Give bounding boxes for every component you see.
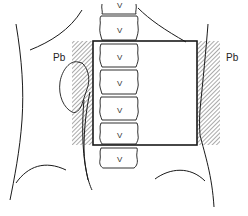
right-lead-shield <box>197 41 220 145</box>
right-flank-line <box>200 135 214 207</box>
left-flank-line <box>10 24 23 200</box>
svg-text:V: V <box>117 155 123 164</box>
svg-text:V: V <box>117 1 123 10</box>
svg-text:V: V <box>117 79 123 88</box>
right-buttock-curve <box>155 170 205 181</box>
svg-text:V: V <box>117 26 123 35</box>
vertebra-marks: V V V V V V V <box>117 1 123 164</box>
right-shoulder-line <box>138 8 186 42</box>
right-pb-label: Pb <box>226 53 238 63</box>
spine-radiation-field-diagram: V V V V V V V <box>0 0 248 216</box>
svg-text:V: V <box>117 131 123 140</box>
left-pb-label: Pb <box>53 53 65 63</box>
left-buttock-curve <box>16 165 66 183</box>
svg-text:V: V <box>117 53 123 62</box>
svg-text:V: V <box>117 106 123 115</box>
